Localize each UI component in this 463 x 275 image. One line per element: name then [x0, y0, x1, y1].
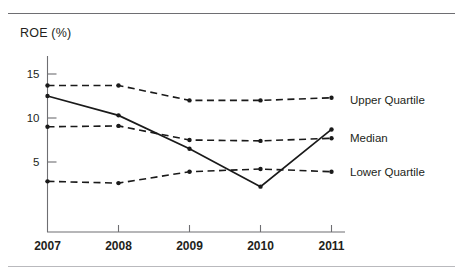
- y-axis-ticks: 15105: [27, 68, 57, 168]
- series-label-lower-quartile: Lower Quartile: [350, 166, 425, 178]
- x-axis-ticks: 20072008200920102011: [34, 225, 345, 253]
- data-point-marker: [45, 179, 49, 183]
- data-point-marker: [187, 138, 191, 142]
- axis-frame: [48, 56, 346, 232]
- chart-plot-area: 15105 20072008200920102011 Upper Quartil…: [0, 0, 463, 275]
- y-tick-label: 5: [33, 156, 39, 168]
- data-point-marker: [258, 167, 262, 171]
- x-tick-label: 2009: [176, 239, 203, 253]
- data-point-marker: [187, 147, 191, 151]
- data-point-marker: [258, 139, 262, 143]
- data-point-marker: [116, 181, 120, 185]
- chart-figure: ROE (%) 15105 20072008200920102011 Upper…: [0, 0, 463, 275]
- data-point-marker: [329, 127, 333, 131]
- series-annotations: Upper QuartileMedianLower Quartile: [350, 94, 425, 177]
- series-label-median: Median: [350, 132, 388, 144]
- data-point-marker: [329, 96, 333, 100]
- y-tick-label: 10: [27, 112, 40, 124]
- data-point-marker: [329, 169, 333, 173]
- data-point-marker: [258, 184, 262, 188]
- data-point-marker: [116, 124, 120, 128]
- data-point-marker: [116, 83, 120, 87]
- data-point-marker: [258, 98, 262, 102]
- data-point-marker: [116, 113, 120, 117]
- series-line-upper-quartile: [48, 85, 332, 100]
- data-point-marker: [45, 125, 49, 129]
- series-layer: [45, 83, 333, 189]
- data-point-marker: [45, 83, 49, 87]
- y-tick-label: 15: [27, 68, 40, 80]
- data-point-marker: [187, 169, 191, 173]
- x-tick-label: 2007: [34, 239, 61, 253]
- x-tick-label: 2010: [247, 239, 274, 253]
- data-point-marker: [329, 136, 333, 140]
- data-point-marker: [187, 98, 191, 102]
- series-label-upper-quartile: Upper Quartile: [350, 94, 425, 106]
- x-tick-label: 2011: [318, 239, 344, 253]
- data-point-marker: [45, 94, 49, 98]
- x-tick-label: 2008: [105, 239, 132, 253]
